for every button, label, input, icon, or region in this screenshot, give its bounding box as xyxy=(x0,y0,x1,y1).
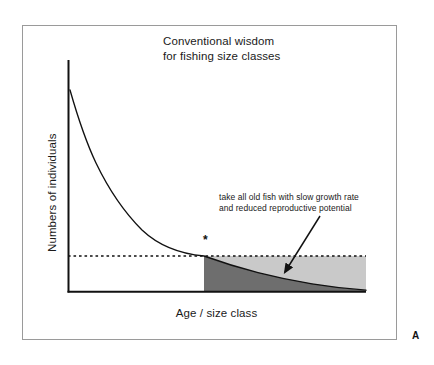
x-axis-label: Age / size class xyxy=(68,307,365,319)
panel-letter-label: A xyxy=(412,330,419,341)
annotation-label: take all old fish with slow growth rate … xyxy=(219,192,359,213)
figure-panel-a: Conventional wisdom for fishing size cla… xyxy=(0,0,434,365)
asterisk-marker: * xyxy=(203,234,208,246)
y-axis-label: Numbers of individuals xyxy=(46,133,58,252)
chart-title: Conventional wisdom for fishing size cla… xyxy=(163,34,280,63)
